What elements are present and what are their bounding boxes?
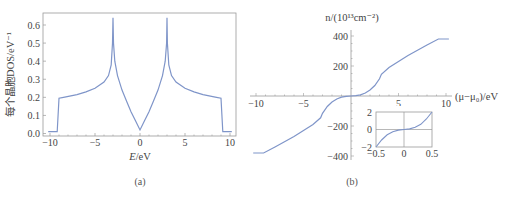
inset-x-tick-label: −0.5 — [367, 148, 385, 159]
y-tick-label: 200 — [333, 61, 348, 72]
chart-b-carrier-density: −10−5510 400200−200−400 (μ−μ₀)/eV n/(10¹… — [248, 12, 498, 188]
inset-y-tick-label: 0 — [367, 124, 372, 135]
x-label-unit: /eV — [136, 151, 152, 162]
chart-a-caption: (a) — [134, 176, 145, 188]
y-tick-label: 0.6 — [28, 20, 41, 31]
chart-a-x-axis-label: E/eV — [128, 151, 151, 162]
figure: −10−50510 0.00.10.20.30.40.50.6 E/eV 每个晶… — [0, 0, 506, 198]
x-tick-label: −5 — [90, 137, 101, 148]
chart-b-y-axis-label: n/(10¹³cm⁻²) — [325, 12, 379, 24]
x-tick-label: 10 — [441, 98, 451, 109]
x-tick-label: −5 — [298, 98, 309, 109]
x-tick-label: 0 — [138, 137, 143, 148]
chart-b-caption: (b) — [346, 176, 358, 188]
x-tick-label: −10 — [42, 137, 58, 148]
y-tick-label: −200 — [327, 121, 348, 132]
inset-x-tick-label: 0.5 — [426, 148, 439, 159]
y-tick-label: 0.3 — [28, 74, 41, 85]
chart-a-dos: −10−50510 0.00.10.20.30.40.50.6 E/eV 每个晶… — [4, 13, 236, 188]
chart-b-x-axis-label: (μ−μ₀)/eV — [455, 91, 498, 103]
chart-a-y-axis-label: 每个晶胞DOS/eV⁻¹ — [4, 32, 16, 117]
y-tick-label: 400 — [333, 31, 348, 42]
y-tick-label: −400 — [327, 151, 348, 162]
y-tick-label: 0.0 — [28, 128, 41, 139]
y-tick-label: 0.1 — [28, 110, 41, 121]
chart-b-inset: 20−2−0.500.5 — [354, 106, 442, 161]
chart-a-frame — [43, 13, 236, 136]
x-tick-label: −10 — [248, 98, 264, 109]
inset-x-tick-label: 0 — [402, 148, 407, 159]
y-tick-label: 0.4 — [28, 56, 41, 67]
x-tick-label: 10 — [225, 137, 235, 148]
inset-y-tick-label: 2 — [367, 107, 372, 118]
y-tick-label: 0.5 — [28, 38, 41, 49]
x-tick-label: 5 — [183, 137, 188, 148]
chart-a-dos-curve — [48, 18, 232, 132]
y-tick-label: 0.2 — [28, 92, 41, 103]
chart-a-x-ticks: −10−50510 — [42, 133, 235, 148]
